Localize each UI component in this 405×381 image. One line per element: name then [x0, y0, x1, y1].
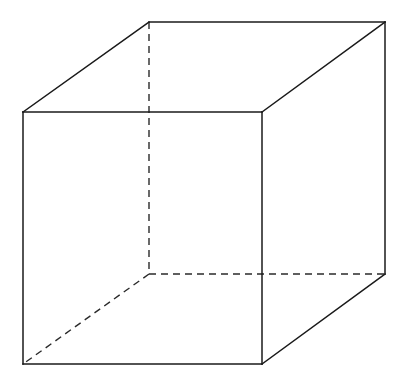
cube-diagram: [0, 0, 405, 381]
edge-front-top-right-to-back-top-right: [262, 22, 385, 112]
edge-front-bottom-right-to-back-bottom-right: [262, 274, 385, 364]
visible-edges: [23, 22, 385, 364]
hidden-edge-back-bottom-left-hidden-to-front-bottom-left: [23, 274, 149, 364]
edge-front-top-left-to-back-top-left: [23, 22, 149, 112]
